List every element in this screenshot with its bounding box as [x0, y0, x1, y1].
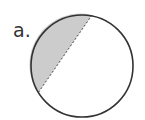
shaded-segment [29, 14, 92, 93]
circle-diagram [0, 0, 145, 120]
